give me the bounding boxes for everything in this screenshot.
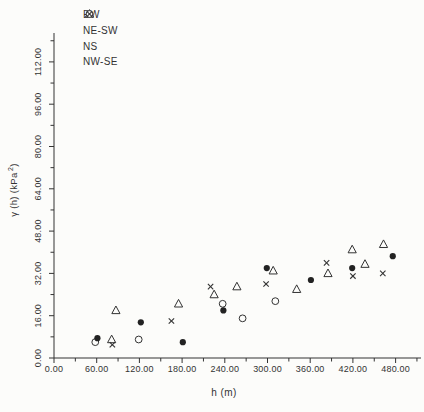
x-axis-tick-label: 300.00 <box>253 364 282 374</box>
point-ew <box>349 265 355 271</box>
point-ne-sw <box>210 290 218 298</box>
point-ne-sw <box>112 306 120 314</box>
x-axis-tick-label: 0.00 <box>45 364 63 374</box>
legend-marker-nw-se-icon <box>87 11 92 16</box>
point-ns <box>219 300 226 307</box>
point-nw-se <box>380 271 385 276</box>
legend-item-ns: NS <box>83 38 118 54</box>
legend-label: NW-SE <box>83 56 118 67</box>
y-axis-tick-label: 0.00 <box>33 349 43 367</box>
point-ew <box>94 335 100 341</box>
legend-item-nw-se: NW-SE <box>83 54 118 70</box>
point-nw-se <box>169 318 174 323</box>
legend-marker-nw-se-icon <box>83 7 96 20</box>
x-axis-tick-label: 240.00 <box>210 364 239 374</box>
series-ns <box>92 298 279 346</box>
point-ne-sw <box>233 282 241 290</box>
point-ew <box>308 277 314 283</box>
point-ne-sw <box>324 269 332 277</box>
y-axis-title-close: ) <box>8 163 19 166</box>
point-nw-se <box>208 284 213 289</box>
scatter-plot-canvas: 0.0060.00120.00180.00240.00300.00360.004… <box>0 0 424 412</box>
point-ne-sw <box>269 266 277 274</box>
x-axis-title: h (m) <box>144 387 304 398</box>
point-ne-sw <box>293 285 301 293</box>
x-axis-tick-label: 120.00 <box>125 364 154 374</box>
point-ns <box>239 315 246 322</box>
x-axis-tick-label: 180.00 <box>168 364 197 374</box>
point-ns <box>272 298 279 305</box>
point-ew <box>220 307 226 313</box>
y-axis-title-superscript: 2 <box>7 167 14 171</box>
y-axis-tick-label: 32.00 <box>33 262 43 286</box>
point-ew <box>390 253 396 259</box>
y-axis-tick-label: 48.00 <box>33 219 43 243</box>
legend-item-ne-sw: NE-SW <box>83 23 118 39</box>
y-axis-title: γ (h) (kPa2) <box>7 140 21 240</box>
point-ne-sw <box>379 240 387 248</box>
point-nw-se <box>350 273 355 278</box>
point-ne-sw <box>174 299 182 307</box>
series-nw-se <box>110 260 386 347</box>
point-ew <box>264 265 270 271</box>
x-axis-tick-label: 360.00 <box>296 364 325 374</box>
x-axis-tick-label: 60.00 <box>85 364 109 374</box>
y-axis-tick-label: 80.00 <box>33 135 43 159</box>
point-ne-sw <box>108 335 116 343</box>
y-axis-tick-label: 112.00 <box>33 48 43 76</box>
point-nw-se <box>263 281 268 286</box>
variogram-figure: 0.0060.00120.00180.00240.00300.00360.004… <box>0 0 424 412</box>
legend: EWNE-SWNSNW-SE <box>83 7 118 70</box>
y-axis-tick-label: 16.00 <box>33 304 43 328</box>
x-axis-tick-label: 480.00 <box>381 364 410 374</box>
legend-label: NS <box>83 41 98 52</box>
point-ne-sw <box>361 260 369 268</box>
point-ew <box>180 339 186 345</box>
series-ne-sw <box>108 240 388 343</box>
point-ne-sw <box>348 245 356 253</box>
x-axis-tick-label: 420.00 <box>339 364 368 374</box>
point-ew <box>138 319 144 325</box>
y-axis-tick-label: 64.00 <box>33 177 43 201</box>
y-axis-title-text: γ (h) (kPa <box>8 173 19 217</box>
point-ns <box>135 336 142 343</box>
legend-label: NE-SW <box>83 25 118 36</box>
series-ew <box>94 253 396 345</box>
point-nw-se <box>324 260 329 265</box>
y-axis-tick-label: 96.00 <box>33 92 43 116</box>
